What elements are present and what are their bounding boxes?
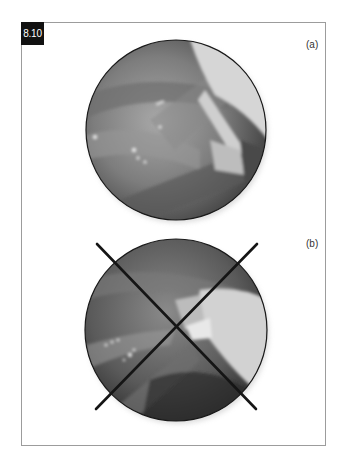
endoscopic-image-a bbox=[86, 40, 268, 225]
endoscopic-image-b bbox=[85, 239, 269, 430]
figure-artwork bbox=[0, 0, 344, 458]
